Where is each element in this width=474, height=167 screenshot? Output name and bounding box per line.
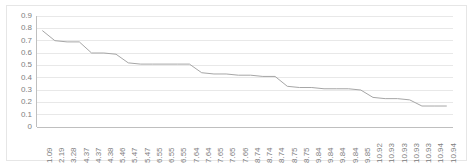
x-axis-tick-label: 10.92 [376,143,384,163]
x-axis-tick-label: 7.64 [205,147,213,163]
x-axis-tick-label: 5.47 [144,147,152,163]
x-axis-tick-label: 4.37 [95,147,103,163]
x-axis-tick-label: 1.09 [46,147,54,163]
x-axis-tick-labels: 1.092.193.284.374.374.385.465.475.476.55… [0,0,474,167]
x-axis-tick-label: 2.19 [58,147,66,163]
x-axis-tick-label: 9.84 [339,147,347,163]
line-chart: 0.90.80.70.60.50.40.30.20.10 1.092.193.2… [0,0,474,167]
x-axis-tick-label: 9.84 [352,147,360,163]
x-axis-tick-label: 5.47 [131,147,139,163]
x-axis-tick-label: 10.93 [413,143,421,163]
x-axis-tick-label: 9.84 [315,147,323,163]
x-axis-tick-label: 6.55 [180,147,188,163]
x-axis-tick-label: 6.55 [168,147,176,163]
x-axis-tick-label: 4.38 [107,147,115,163]
x-axis-tick-label: 7.65 [217,147,225,163]
x-axis-tick-label: 8.74 [254,147,262,163]
x-axis-tick-label: 10.93 [401,143,409,163]
x-axis-tick-label: 8.74 [266,147,274,163]
x-axis-tick-label: 9.84 [327,147,335,163]
x-axis-tick-label: 7.65 [229,147,237,163]
x-axis-tick-label: 10.93 [388,143,396,163]
x-axis-tick-label: 4.37 [83,147,91,163]
x-axis-tick-label: 3.28 [70,147,78,163]
x-axis-tick-label: 10.94 [450,143,458,163]
x-axis-tick-label: 7.66 [242,147,250,163]
x-axis-tick-label: 5.46 [119,147,127,163]
x-axis-tick-label: 10.94 [437,143,445,163]
x-axis-tick-label: 7.64 [193,147,201,163]
x-axis-tick-label: 8.74 [278,147,286,163]
x-axis-tick-label: 8.75 [303,147,311,163]
x-axis-tick-label: 10.93 [425,143,433,163]
x-axis-tick-label: 9.85 [364,147,372,163]
x-axis-tick-label: 6.55 [156,147,164,163]
x-axis-tick-label: 8.75 [291,147,299,163]
